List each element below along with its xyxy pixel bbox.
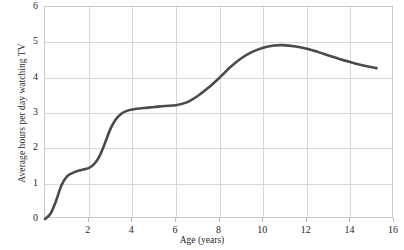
plot-area bbox=[44, 6, 393, 218]
x-axis-tick-mark bbox=[262, 218, 263, 222]
x-axis-tick-mark bbox=[349, 218, 350, 222]
data-series-line bbox=[45, 7, 394, 219]
y-axis-tick-label: 4 bbox=[14, 72, 38, 82]
y-axis-tick-label: 2 bbox=[14, 142, 38, 152]
y-axis-tick-label: 3 bbox=[14, 107, 38, 117]
y-axis-tick-label: 6 bbox=[14, 1, 38, 11]
y-axis-tick-label: 0 bbox=[14, 213, 38, 223]
x-axis-tick-mark bbox=[88, 218, 89, 222]
chart-container: Average hours per day watching TV 012345… bbox=[0, 0, 404, 250]
x-axis-tick-mark bbox=[131, 218, 132, 222]
x-axis-title: Age (years) bbox=[0, 234, 404, 246]
x-axis-tick-mark bbox=[219, 218, 220, 222]
y-axis-tick-label: 5 bbox=[14, 36, 38, 46]
x-axis-tick-mark bbox=[175, 218, 176, 222]
x-axis-tick-mark bbox=[306, 218, 307, 222]
x-axis-tick-mark bbox=[393, 218, 394, 222]
y-axis-tick-label: 1 bbox=[14, 178, 38, 188]
series-path bbox=[45, 45, 377, 219]
